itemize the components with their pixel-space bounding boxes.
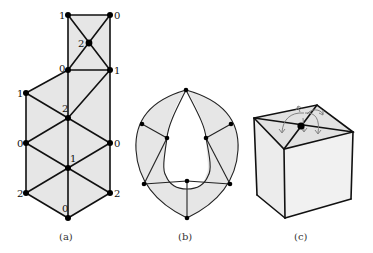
vertex-label: 0 (59, 63, 65, 74)
vertex-label: 1 (114, 65, 120, 76)
panel-c-cube (254, 105, 353, 218)
vertex-label: 1 (17, 88, 23, 99)
vertex-label: 0 (114, 10, 120, 21)
vertex-label: 2 (114, 188, 120, 199)
vertex-label: 2 (62, 103, 68, 114)
caption-c: (c) (294, 231, 308, 242)
vertex-label: 0 (62, 203, 68, 214)
vertex-label: 2 (78, 38, 84, 49)
caption-a: (a) (59, 231, 73, 242)
vertex-label: 0 (17, 138, 23, 149)
panel-b-mesh (136, 88, 238, 221)
vertex-label: 0 (114, 138, 120, 149)
vertex-label: 1 (70, 153, 76, 164)
vertex-label: 1 (59, 10, 65, 21)
panel-a-mesh (23, 12, 113, 221)
caption-b: (b) (178, 231, 192, 242)
vertex-label: 2 (17, 188, 23, 199)
figure-canvas: 1 0 2 0 1 1 2 0 0 1 2 2 0 (a) (0, 0, 373, 253)
